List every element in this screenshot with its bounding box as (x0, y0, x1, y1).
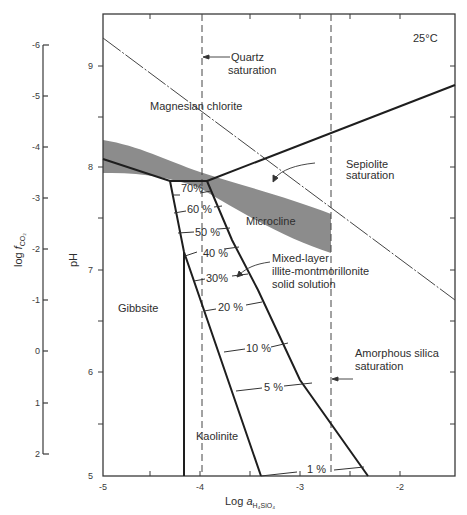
svg-text:6: 6 (88, 367, 93, 377)
svg-text:5 %: 5 % (264, 381, 283, 393)
co2-tick-labels: -6 -5 -4 -3 -2 -1 0 1 2 (32, 40, 40, 459)
svg-text:log fCO₂: log fCO₂ (12, 233, 26, 267)
svg-text:-2: -2 (396, 482, 404, 492)
svg-text:7: 7 (88, 265, 93, 275)
co2-axis (43, 45, 49, 454)
y-axis-title-ph: pH (67, 253, 79, 267)
svg-text:5: 5 (88, 471, 93, 481)
svg-text:Log aH₄SiO₄: Log aH₄SiO₄ (225, 495, 275, 509)
y2-axis-title-co2: log fCO₂ (12, 233, 26, 267)
svg-text:-2: -2 (32, 244, 40, 254)
temperature-label: 25°C (413, 32, 438, 44)
mixed-layer-label-3: solid solution (272, 278, 336, 290)
plot-frame (103, 14, 455, 476)
region-microcline: Microcline (246, 215, 296, 227)
x-axis-ticks (150, 471, 400, 476)
x-tick-labels: -5 -4 -3 -2 (99, 482, 404, 492)
svg-text:10 %: 10 % (246, 342, 271, 354)
top-ticks (150, 14, 400, 19)
region-gibbsite: Gibbsite (118, 302, 158, 314)
svg-text:20 %: 20 % (218, 301, 243, 313)
svg-text:-3: -3 (296, 482, 304, 492)
chlorite-microcline-boundary (207, 85, 455, 181)
svg-text:1 %: 1 % (307, 463, 326, 475)
mixed-layer-label-1: Mixed-layer (272, 252, 329, 264)
svg-text:50 %: 50 % (195, 226, 220, 238)
quartz-label-1: Quartz (231, 51, 264, 63)
svg-text:0: 0 (35, 346, 40, 356)
amorphous-silica-label-1: Amorphous silica (355, 347, 440, 359)
ph-tick-labels: 9 8 7 6 5 (88, 61, 93, 481)
x-axis-title: Log aH₄SiO₄ (225, 495, 275, 509)
svg-text:-5: -5 (99, 482, 107, 492)
phase-diagram: -5 -4 -3 -2 9 8 7 6 5 -6 -5 -4 -3 -2 -1 … (0, 0, 467, 515)
svg-text:-3: -3 (32, 193, 40, 203)
svg-text:60 %: 60 % (187, 203, 212, 215)
amorphous-silica-label-2: saturation (355, 360, 403, 372)
svg-text:40 %: 40 % (203, 247, 228, 259)
svg-text:-6: -6 (32, 40, 40, 50)
svg-text:2: 2 (35, 449, 40, 459)
quartz-label-2: saturation (228, 64, 276, 76)
svg-text:-1: -1 (32, 295, 40, 305)
region-kaolinite: Kaolinite (196, 430, 238, 442)
svg-text:70%: 70% (181, 182, 203, 194)
svg-text:1: 1 (35, 398, 40, 408)
region-magnesian-chlorite: Magnesian chlorite (150, 100, 242, 112)
sepiolite-label-2: saturation (346, 169, 394, 181)
svg-text:9: 9 (88, 61, 93, 71)
svg-text:-4: -4 (32, 142, 40, 152)
mixed-layer-label-2: illite-montmorillonite (272, 265, 369, 277)
svg-text:-4: -4 (196, 482, 204, 492)
svg-text:8: 8 (88, 162, 93, 172)
right-ticks (450, 66, 455, 424)
ph-axis-ticks (98, 66, 103, 424)
svg-text:-5: -5 (32, 91, 40, 101)
svg-text:30%: 30% (206, 272, 228, 284)
